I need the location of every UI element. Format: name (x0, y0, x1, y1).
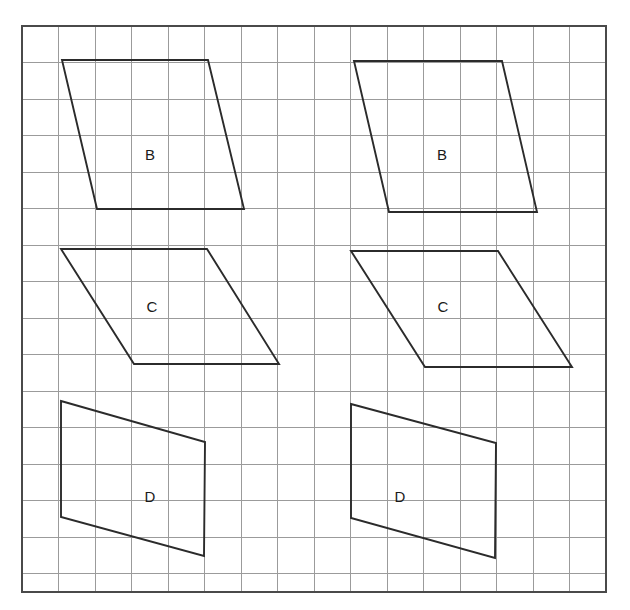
shape-b-right (354, 61, 537, 212)
figure-root: BBCCDD (0, 0, 630, 610)
shape-c-right (351, 251, 572, 367)
shape-d-left (61, 401, 205, 556)
shape-c-right-label: C (438, 298, 449, 315)
shape-b-right-label: B (437, 146, 447, 163)
shape-b-left (62, 60, 244, 209)
shapes-layer (61, 60, 572, 558)
shape-d-right-label: D (395, 488, 406, 505)
shape-c-left (61, 249, 279, 364)
shape-labels-layer: BBCCDD (145, 146, 449, 505)
shape-c-left-label: C (147, 298, 158, 315)
grid-lines (22, 26, 606, 592)
shape-d-left-label: D (145, 488, 156, 505)
shape-b-left-label: B (145, 146, 155, 163)
grid-figure: BBCCDD (0, 0, 630, 610)
